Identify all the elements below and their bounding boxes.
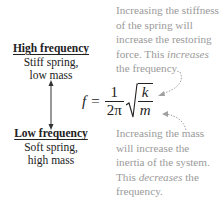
mass-note-line4: This decreases the [116,170,210,185]
high-frequency-label: High frequency Stiff spring, low mass [11,42,91,83]
low-frequency-line1: Soft spring, [11,141,91,155]
high-frequency-line1: Stiff spring, [11,56,91,70]
fraction-numerator: 1 [108,84,120,101]
stiffness-pointer-arrow-icon [150,70,190,100]
double-arrow-icon [46,80,56,130]
stiffness-note-line3: increase the restoring [116,32,219,47]
low-frequency-line2: high mass [11,154,91,168]
fraction-denominator: 2π [105,101,124,119]
low-frequency-label: Low frequency Soft spring, high mass [11,127,91,168]
stiffness-note-line2: of the spring will [116,18,219,33]
frequency-formula: f = 1 2π k m [82,82,153,120]
sqrt-sign-icon [126,83,138,119]
stiffness-note-line4: force. This increases [116,47,219,62]
sqrt-numerator: k [140,84,151,101]
mass-pointer-arrow-icon [158,110,194,132]
emphasis-decreases: decreases [139,171,183,183]
mass-note-line2: will increase the [116,141,210,156]
low-frequency-title: Low frequency [11,127,91,141]
formula-lhs: f [82,93,86,110]
formula-fraction: 1 2π [105,84,124,119]
emphasis-increases: increases [167,48,209,60]
sqrt-denominator: m [138,101,153,119]
stiffness-note-line1: Increasing the stiffness [116,3,219,18]
mass-note-line5: frequency. [116,184,210,199]
mass-note-line3: inertia of the system. [116,155,210,170]
stiffness-note: Increasing the stiffness of the spring w… [116,3,219,76]
high-frequency-title: High frequency [11,42,91,56]
formula-equals: = [91,93,99,110]
formula-sqrt: k m [126,83,153,119]
mass-note: Increasing the mass will increase the in… [116,126,210,199]
